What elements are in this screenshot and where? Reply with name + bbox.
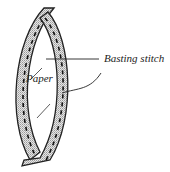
diagram-canvas (0, 0, 170, 172)
paper-label: Paper (26, 72, 53, 84)
basting-stitch-label: Basting stitch (104, 52, 164, 64)
paper-shade-line (37, 104, 50, 118)
